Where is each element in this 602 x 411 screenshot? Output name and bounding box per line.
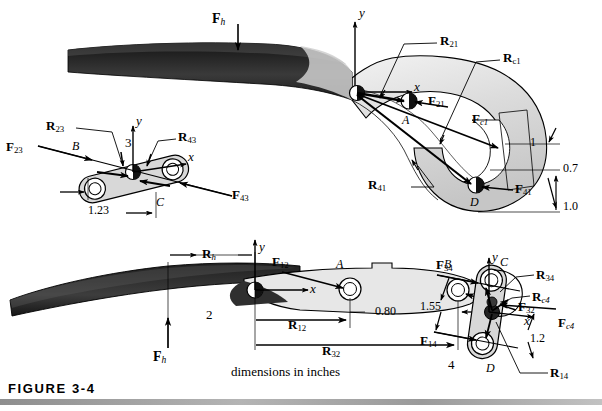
dim-link4-155: 1.55: [420, 300, 441, 312]
label-force-fh-top: Fh: [212, 12, 225, 28]
caption-rule: [0, 399, 602, 405]
label-f14: F14: [420, 334, 437, 349]
label-axis-y-link2: y: [259, 240, 265, 253]
label-link-4-number: 4: [448, 358, 455, 371]
dim-link1-07: 0.7: [563, 162, 578, 174]
link-2-body: [10, 263, 480, 316]
dimensions-note: dimensions in inches: [231, 364, 340, 380]
dim-link1-10: 1.0: [563, 200, 578, 212]
dim-link2-080: 0.80: [375, 305, 396, 317]
label-axis-y-link4: y: [492, 250, 498, 263]
label-joint-c-link4: C: [500, 256, 508, 268]
label-fc1: Fc1: [472, 112, 488, 127]
label-joint-c-link3: C: [156, 196, 164, 208]
label-rh: Rh: [202, 247, 216, 262]
label-f34: F34: [436, 258, 453, 273]
label-r21: R21: [440, 34, 458, 49]
label-axis-x-link2: x: [310, 282, 316, 295]
label-r41: R41: [368, 178, 386, 193]
label-link-2-number: 2: [206, 308, 213, 321]
label-r14: R14: [550, 366, 568, 381]
label-axis-x-link3: x: [188, 150, 194, 163]
label-joint-a-link2: A: [336, 258, 343, 270]
label-force-fh-link2: Fh: [153, 350, 166, 366]
label-f43: F43: [232, 188, 249, 203]
label-rc1: Rc1: [503, 51, 521, 66]
label-r23: R23: [46, 119, 64, 134]
label-joint-d-link1: D: [470, 196, 479, 208]
figure-caption: FIGURE 3-4: [8, 381, 96, 396]
label-axis-y-link1: y: [359, 6, 365, 19]
label-f23: F23: [6, 140, 23, 155]
label-joint-b-link3: B: [72, 140, 79, 152]
dim-link4-12: 1.2: [530, 332, 545, 344]
label-link-3-number: 3: [125, 136, 132, 149]
label-axis-x-link4: x: [524, 314, 530, 327]
label-axis-y-link3: y: [136, 114, 142, 127]
label-f12: F12: [272, 255, 289, 270]
label-r32: R32: [322, 344, 340, 359]
label-r12: R12: [288, 318, 306, 333]
label-joint-a-link1: A: [402, 114, 409, 126]
label-r43: R43: [178, 130, 196, 145]
dim-link3-123: 1.23: [88, 204, 109, 216]
label-r34: R34: [536, 268, 554, 283]
label-fc4: Fc4: [558, 316, 574, 331]
label-f41: F41: [515, 182, 532, 197]
label-f21: F21: [428, 94, 445, 109]
dim-link1-1: 1: [530, 136, 536, 148]
label-joint-d-link4: D: [486, 362, 495, 374]
label-rc4: Rc4: [532, 290, 550, 305]
label-axis-x-link1: x: [414, 80, 420, 93]
